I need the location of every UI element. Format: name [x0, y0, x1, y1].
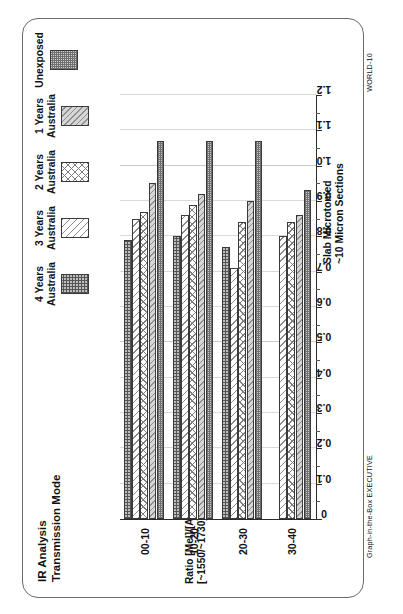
brand-label: Graph-in-the-Box EXECUTIVE	[365, 455, 374, 558]
axis-tick-minor	[316, 466, 320, 467]
bar-20-30-unexposed	[255, 141, 263, 519]
axis-tick-minor	[316, 501, 320, 502]
page-title: IR Analysis Transmission Mode	[36, 332, 63, 582]
category-axis: 00-1010-2020-3030-40	[120, 522, 316, 582]
axis-tick-minor	[316, 183, 320, 184]
legend-label: Unexposed	[34, 32, 46, 88]
axis-tick-label: 1.1	[317, 119, 332, 131]
chart-stage-wrapper: IR Analysis Transmission Mode 4 YearsAus…	[23, 19, 363, 597]
bar-10-20-3-years	[181, 215, 189, 519]
legend-item-2[interactable]: 2 YearsAustralia	[34, 150, 89, 194]
axis-tick-label: 0.7	[317, 261, 332, 273]
bar-00-10-3-years	[132, 219, 140, 519]
legend-item-4[interactable]: Unexposed	[34, 38, 78, 82]
chart-stage: IR Analysis Transmission Mode 4 YearsAus…	[34, 34, 352, 582]
axis-tick-label: 0.2	[317, 437, 332, 449]
bar-30-40-3-years	[279, 236, 287, 519]
legend-item-1[interactable]: 3 YearsAustralia	[34, 206, 89, 250]
category-label: 10-20	[188, 528, 200, 555]
category-label: 20-30	[237, 528, 249, 555]
axis-tick-label: 0.4	[317, 367, 332, 379]
bar-30-40-unexposed	[304, 190, 312, 519]
bar-10-20-unexposed	[206, 141, 214, 519]
legend-swatch	[61, 106, 89, 126]
axis-tick-label: 0.8	[317, 225, 332, 237]
gridline	[120, 94, 316, 95]
bar-10-20-2-years	[189, 205, 197, 519]
legend-swatch	[61, 218, 89, 238]
gridline	[120, 129, 316, 130]
category-label: 30-40	[286, 528, 298, 555]
screenshot-root: IR Analysis Transmission Mode 4 YearsAus…	[0, 0, 403, 614]
legend-label: 3 Years	[34, 210, 46, 246]
axis-tick-minor	[316, 289, 320, 290]
legend-item-3[interactable]: 1 YearsAustralia	[34, 94, 89, 138]
axis-tick-minor	[316, 148, 320, 149]
bar-00-10-1-years	[149, 183, 157, 519]
axis-tick-label: 1.0	[317, 155, 332, 167]
chart-card: IR Analysis Transmission Mode 4 YearsAus…	[22, 18, 364, 598]
world-code-label: WORLD-10	[365, 53, 374, 92]
axis-tick-label: 0.1	[317, 473, 332, 485]
axis-tick-label: 0.3	[317, 402, 332, 414]
legend-label-sub: Australia	[46, 94, 58, 138]
chart-legend: 4 YearsAustralia3 YearsAustralia2 YearsA…	[34, 38, 89, 306]
axis-tick-label: 1.2	[317, 84, 332, 96]
axis-tick-label: 0	[321, 508, 327, 520]
bar-00-10-4-years	[124, 240, 132, 519]
bar-30-40-2-years	[287, 222, 295, 519]
axis-tick-label: 0.6	[317, 296, 332, 308]
axis-tick-label: 0.5	[317, 331, 332, 343]
bar-00-10-2-years	[140, 212, 148, 519]
legend-label: 4 Years	[34, 266, 46, 302]
category-label: 00-10	[139, 528, 151, 555]
bar-00-10-unexposed	[157, 141, 165, 519]
legend-label-sub: Australia	[46, 206, 58, 250]
axis-tick-minor	[316, 113, 320, 114]
legend-swatch	[61, 274, 89, 294]
axis-tick-minor	[316, 325, 320, 326]
axis-tick-label: 0.9	[317, 190, 332, 202]
axis-tick-minor	[316, 219, 320, 220]
axis-tick-minor	[316, 254, 320, 255]
bar-30-40-1-years	[296, 215, 304, 519]
axis-tick-minor	[316, 395, 320, 396]
value-axis: 1.21.11.00.90.80.70.60.50.40.30.20.10	[316, 96, 350, 520]
legend-item-0[interactable]: 4 YearsAustralia	[34, 262, 89, 306]
legend-swatch	[61, 162, 89, 182]
legend-label-sub: Australia	[46, 150, 58, 194]
chart-title-line2: Transmission Mode	[50, 332, 64, 582]
legend-label-sub: Australia	[46, 262, 58, 306]
bar-10-20-4-years	[173, 236, 181, 519]
legend-label: 1 Years	[34, 98, 46, 134]
axis-tick-minor	[316, 360, 320, 361]
axis-tick-minor	[316, 431, 320, 432]
legend-swatch	[50, 50, 78, 70]
gridline	[120, 165, 316, 166]
chart-title-line1: IR Analysis	[36, 332, 50, 582]
plot-area	[120, 95, 317, 520]
bar-20-30-2-years	[238, 222, 246, 519]
bar-20-30-4-years	[222, 247, 230, 519]
bar-20-30-3-years	[230, 268, 238, 519]
bar-20-30-1-years	[247, 201, 255, 519]
legend-label: 2 Years	[34, 154, 46, 190]
bar-10-20-1-years	[198, 194, 206, 519]
